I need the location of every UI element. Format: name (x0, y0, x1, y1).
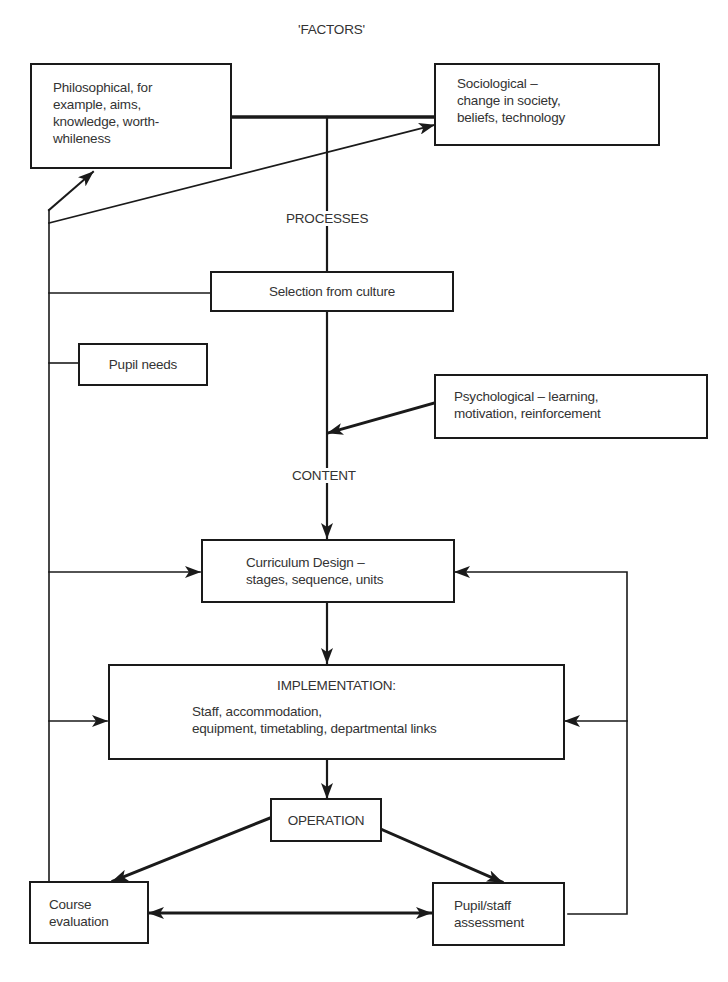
implementation-text: Staff, accommodation, equipment, timetab… (192, 703, 437, 737)
curriculum-design-text: Curriculum Design – stages, sequence, un… (246, 554, 383, 588)
processes-label: PROCESSES (284, 211, 370, 226)
factors-title: 'FACTORS' (296, 22, 367, 37)
assessment-node: Pupil/staff assessment (432, 882, 565, 946)
pupil-needs-node: Pupil needs (78, 343, 208, 386)
psychological-node: Psychological – learning, motivation, re… (434, 374, 708, 439)
arrow-to-philosophical (49, 172, 93, 210)
philosophical-text: Philosophical, for example, aims, knowle… (53, 79, 159, 147)
operation-text: OPERATION (272, 812, 380, 829)
implementation-title: IMPLEMENTATION: (110, 677, 563, 694)
selection-text: Selection from culture (212, 283, 452, 300)
philosophical-node: Philosophical, for example, aims, knowle… (30, 63, 232, 169)
content-label: CONTENT (290, 468, 358, 483)
course-evaluation-text: Course evaluation (49, 896, 109, 930)
sociological-text: Sociological – change in society, belief… (457, 75, 565, 126)
pupil-needs-text: Pupil needs (80, 356, 206, 373)
arrow-psychological-to-spine (328, 403, 434, 433)
curriculum-design-node: Curriculum Design – stages, sequence, un… (201, 539, 455, 603)
sociological-node: Sociological – change in society, belief… (434, 63, 660, 146)
arrow-operation-to-assessment (383, 830, 502, 882)
arrow-operation-to-course (113, 818, 270, 881)
psychological-text: Psychological – learning, motivation, re… (454, 388, 601, 422)
course-evaluation-node: Course evaluation (29, 881, 149, 944)
operation-node: OPERATION (270, 798, 382, 842)
selection-node: Selection from culture (210, 271, 454, 312)
implementation-node: IMPLEMENTATION: Staff, accommodation, eq… (108, 664, 565, 760)
assessment-text: Pupil/staff assessment (454, 897, 524, 931)
